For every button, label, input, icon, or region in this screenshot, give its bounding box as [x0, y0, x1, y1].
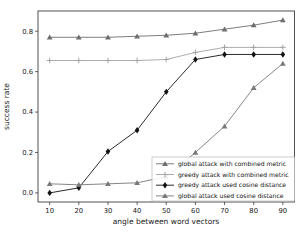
x-axis-label: angle between word vectors	[113, 217, 220, 226]
legend-label: global attack with combined metric	[178, 160, 286, 168]
line-chart: 1020304050607080900.00.20.40.60.8global …	[0, 0, 306, 233]
x-tick-label: 50	[162, 207, 171, 215]
y-tick-label: 0.8	[22, 28, 33, 36]
x-tick-label: 60	[191, 207, 200, 215]
x-tick-label: 90	[279, 207, 288, 215]
y-tick-label: 0.0	[22, 189, 33, 197]
legend-label: global attack used cosine distance	[178, 192, 284, 200]
figure-canvas: 1020304050607080900.00.20.40.60.8global …	[0, 0, 306, 233]
x-tick-label: 10	[45, 207, 54, 215]
y-tick-label: 0.2	[22, 149, 33, 157]
x-tick-label: 40	[133, 207, 142, 215]
y-tick-label: 0.4	[22, 108, 33, 116]
x-tick-label: 30	[104, 207, 113, 215]
x-tick-label: 70	[220, 207, 229, 215]
y-axis-label: success rate	[2, 83, 11, 130]
legend-label: greedy attack with combined metric	[178, 171, 289, 179]
x-tick-label: 20	[74, 207, 83, 215]
y-tick-label: 0.6	[22, 68, 33, 76]
legend-label: greedy attack used cosine distance	[178, 181, 286, 189]
x-tick-label: 80	[249, 207, 258, 215]
legend: global attack with combined metricgreedy…	[152, 157, 295, 201]
